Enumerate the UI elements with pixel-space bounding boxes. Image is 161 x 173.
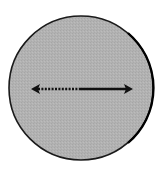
circle-diagram: [0, 0, 161, 173]
